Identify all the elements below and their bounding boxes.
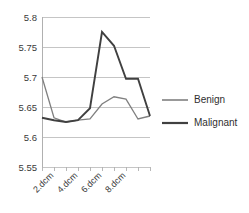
y-tick-label-5.6: 5.6 bbox=[24, 132, 37, 143]
line-chart: 5.8 5.75 5.7 5.65 5.6 5.55 2.dcm 4.dcm 6… bbox=[0, 0, 249, 213]
x-tick-label-4dcm: 4.dcm bbox=[55, 170, 79, 194]
legend: Benign Malignant bbox=[162, 94, 238, 128]
y-tick-label-5.75: 5.75 bbox=[19, 42, 38, 53]
x-axis-labels: 2.dcm 4.dcm 6.dcm 8.dcm bbox=[31, 170, 127, 194]
y-tick-label-5.7: 5.7 bbox=[24, 72, 37, 83]
series-line-benign bbox=[42, 77, 150, 122]
legend-label-benign: Benign bbox=[194, 94, 225, 105]
x-tick-label-6dcm: 6.dcm bbox=[79, 170, 103, 194]
chart-container: 5.8 5.75 5.7 5.65 5.6 5.55 2.dcm 4.dcm 6… bbox=[0, 0, 249, 213]
gridlines bbox=[42, 17, 150, 167]
y-tick-label-5.65: 5.65 bbox=[19, 102, 38, 113]
y-axis-labels: 5.8 5.75 5.7 5.65 5.6 5.55 bbox=[19, 12, 38, 173]
x-tick-label-2dcm: 2.dcm bbox=[31, 170, 55, 194]
legend-label-malignant: Malignant bbox=[194, 117, 238, 128]
y-tick-label-5.55: 5.55 bbox=[19, 162, 38, 173]
y-tick-label-5.8: 5.8 bbox=[24, 12, 37, 23]
x-tick-label-8dcm: 8.dcm bbox=[103, 170, 127, 194]
